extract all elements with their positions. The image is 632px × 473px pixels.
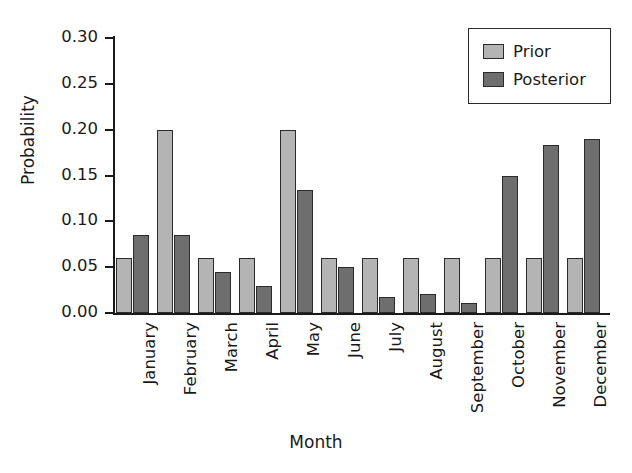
bar-prior-july [362,258,378,313]
legend-label-posterior: Posterior [513,70,586,89]
bar-posterior-september [461,303,477,313]
bar-prior-march [198,258,214,313]
x-axis-tick-label: February [181,322,200,395]
bar-prior-november [526,258,542,313]
x-axis-tick-label: November [550,322,569,408]
y-axis-title: Probability [18,60,38,220]
x-axis-tick-label: May [304,322,323,356]
y-axis-tick-mark [105,37,114,39]
bar-posterior-december [584,139,600,313]
x-axis-tick-label: September [468,322,487,413]
y-axis-tick-label: 0.30 [38,27,98,46]
bar-prior-june [321,258,337,313]
x-axis-tick-label: October [509,322,528,388]
bar-posterior-february [174,235,190,313]
x-axis-tick-label: August [427,322,446,380]
x-axis-tick-label: January [140,322,159,385]
bar-posterior-may [297,190,313,313]
y-axis-tick-label: 0.20 [38,119,98,138]
y-axis-tick-label: 0.05 [38,256,98,275]
legend-item-posterior: Posterior [483,70,586,89]
x-axis-tick-label: June [345,322,364,358]
bar-prior-august [403,258,419,313]
bar-prior-october [485,258,501,313]
x-axis-tick-label: July [386,322,405,352]
bar-posterior-july [379,297,395,313]
y-axis-tick-mark [105,266,114,268]
x-axis-tick-label: April [263,322,282,360]
y-axis-tick-mark [105,175,114,177]
y-axis-tick-label: 0.15 [38,165,98,184]
y-axis-tick-label: 0.10 [38,210,98,229]
bar-posterior-august [420,294,436,313]
bar-prior-september [444,258,460,313]
bar-posterior-january [133,235,149,313]
bar-chart: Probability 0.000.050.100.150.200.250.30… [0,0,632,473]
x-axis-line [113,313,610,315]
legend-swatch-posterior-icon [483,72,504,87]
y-axis-tick-label: 0.00 [38,302,98,321]
bar-posterior-november [543,145,559,313]
bar-prior-february [157,130,173,313]
x-axis-tick-label: December [591,322,610,408]
bar-prior-may [280,130,296,313]
y-axis-tick-label: 0.25 [38,73,98,92]
legend-swatch-prior-icon [483,44,504,59]
bar-posterior-october [502,176,518,313]
legend: Prior Posterior [468,28,611,104]
y-axis-tick-mark [105,83,114,85]
bar-prior-december [567,258,583,313]
bar-prior-january [116,258,132,313]
bar-prior-april [239,258,255,313]
bar-posterior-june [338,267,354,313]
y-axis-tick-mark [105,312,114,314]
x-axis-tick-label: March [222,322,241,372]
y-axis-tick-mark [105,129,114,131]
bar-posterior-april [256,286,272,314]
legend-item-prior: Prior [483,42,551,61]
y-axis-tick-mark [105,220,114,222]
bar-posterior-march [215,272,231,313]
x-axis-title: Month [0,432,632,452]
legend-label-prior: Prior [513,42,551,61]
